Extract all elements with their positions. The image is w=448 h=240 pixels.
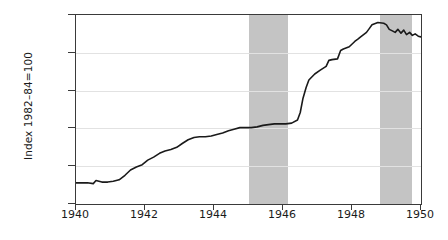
y-axis-title: Index 1982–84=100 [22,16,34,196]
x-tick-mark-1944 [213,204,214,210]
cpi-line-series [76,15,421,204]
chart-container: Index 1982–84=100 12.515.017.520.022.525… [0,0,448,240]
y-tick-mark-25.0 [68,14,75,15]
x-tick-mark-1940 [75,204,76,210]
y-tick-mark-20.0 [68,90,75,91]
y-tick-mark-15.0 [68,165,75,166]
x-tick-mark-1950 [420,204,421,210]
x-tick-label-1950: 1950 [390,208,448,221]
y-tick-mark-12.5 [68,203,75,204]
x-tick-mark-1942 [144,204,145,210]
y-tick-mark-17.5 [68,127,75,128]
x-tick-mark-1948 [351,204,352,210]
x-tick-mark-1946 [282,204,283,210]
series-layer [76,15,421,204]
y-tick-mark-22.5 [68,52,75,53]
plot-area [75,14,422,205]
